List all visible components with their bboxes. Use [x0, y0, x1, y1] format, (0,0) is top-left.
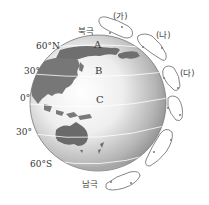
- cell-loop-s3: [106, 172, 140, 191]
- north-pole-label: 북극: [78, 27, 94, 36]
- arrow-marker: [163, 77, 165, 79]
- arrow-marker: [110, 181, 112, 183]
- arrow-marker: [142, 46, 144, 48]
- lat-label-60n: 60°N: [36, 42, 60, 51]
- arrow-marker: [167, 107, 169, 109]
- lat-label-eq: 0°: [20, 94, 30, 103]
- arrow-marker: [179, 114, 181, 116]
- arrow-marker: [109, 32, 111, 34]
- lat-label-30n: 30°: [24, 67, 40, 76]
- cell-label-na: (나): [156, 31, 171, 40]
- lat-label-60s: 60°S: [30, 160, 52, 169]
- region-c: C: [96, 95, 104, 105]
- cell-label-ga: (가): [113, 12, 128, 21]
- arrow-marker: [130, 182, 132, 184]
- arrow-marker: [177, 87, 179, 89]
- arrow-marker: [121, 26, 123, 28]
- south-pole-label: 남극: [82, 180, 98, 189]
- lat-label-30s: 30°: [16, 128, 32, 137]
- arrow-marker: [170, 139, 172, 141]
- circulation-diagram: 60°N 30° 0° 30° 60°S 북극 남극 A B C (가) (나)…: [0, 0, 209, 205]
- globe-svg: [0, 0, 209, 205]
- arrow-marker: [153, 151, 155, 153]
- cell-label-da: (다): [180, 69, 195, 78]
- region-a: A: [94, 40, 101, 50]
- cell-loop-s1: [168, 96, 183, 121]
- region-b: B: [95, 66, 102, 76]
- arrow-marker: [161, 47, 163, 49]
- cell-loop-da: [163, 66, 180, 91]
